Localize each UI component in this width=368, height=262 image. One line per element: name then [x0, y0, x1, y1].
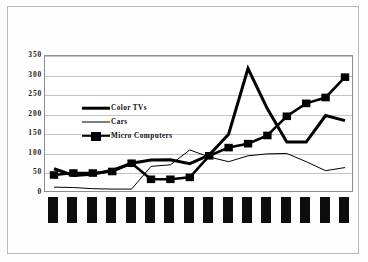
y-tick-label: 0	[37, 187, 42, 196]
chart-figure: 050100150200250300350 Color TVs Cars Mic…	[0, 0, 368, 262]
series-marker	[69, 169, 77, 177]
x-tick-label-redacted	[184, 197, 194, 223]
series-marker	[283, 112, 291, 120]
x-tick-label-redacted	[87, 197, 97, 223]
x-tick-label-redacted	[106, 197, 116, 223]
legend-label-micro-computers: Micro Computers	[111, 132, 173, 140]
x-tick-label-redacted	[48, 197, 58, 223]
series-marker	[341, 73, 349, 81]
x-axis-redacted-labels	[44, 197, 353, 225]
x-tick-label-redacted	[320, 197, 330, 223]
x-tick-label-redacted	[242, 197, 252, 223]
legend-label-cars: Cars	[111, 118, 128, 126]
y-tick-label: 200	[28, 109, 42, 118]
legend-item-color-tvs: Color TVs	[82, 101, 202, 115]
series-marker	[244, 140, 252, 148]
series-marker	[50, 171, 58, 179]
legend-item-cars: Cars	[82, 115, 202, 129]
chart-legend: Color TVs Cars Micro Computers	[82, 101, 202, 143]
x-tick-label-redacted	[67, 197, 77, 223]
x-tick-label-redacted	[223, 197, 233, 223]
legend-label-color-tvs: Color TVs	[111, 104, 147, 112]
y-axis: 050100150200250300350	[10, 49, 42, 199]
series-marker	[321, 94, 329, 102]
y-tick-label: 350	[28, 50, 42, 59]
x-tick-label-redacted	[261, 197, 271, 223]
x-tick-label-redacted	[126, 197, 136, 223]
series-marker	[263, 132, 271, 140]
x-tick-label-redacted	[281, 197, 291, 223]
series-marker	[166, 176, 174, 184]
y-tick-label: 100	[28, 148, 42, 157]
x-tick-label-redacted	[164, 197, 174, 223]
y-tick-label: 50	[33, 167, 42, 176]
series-line	[54, 150, 345, 189]
series-marker	[224, 144, 232, 152]
series-marker	[302, 100, 310, 108]
x-tick-label-redacted	[145, 197, 155, 223]
legend-item-micro-computers: Micro Computers	[82, 129, 202, 143]
series-marker	[108, 168, 116, 176]
series-marker	[127, 159, 135, 167]
series-marker	[186, 174, 194, 182]
thick-line-swatch-icon	[82, 102, 110, 114]
y-tick-label: 300	[28, 70, 42, 79]
thin-line-swatch-icon	[82, 116, 110, 128]
x-tick-label-redacted	[203, 197, 213, 223]
series-marker	[147, 176, 155, 184]
series-marker	[205, 152, 213, 160]
y-tick-label: 150	[28, 128, 42, 137]
y-tick-label: 250	[28, 89, 42, 98]
series-marker	[89, 169, 97, 177]
x-tick-label-redacted	[339, 197, 349, 223]
square-marker-line-swatch-icon	[82, 130, 110, 142]
x-tick-label-redacted	[300, 197, 310, 223]
